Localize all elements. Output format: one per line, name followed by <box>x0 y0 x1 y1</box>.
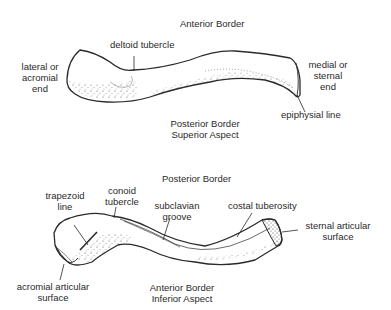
label-lateral-end-line2: acromial <box>17 72 63 83</box>
superior-aspect-line2: Superior Aspect <box>160 129 250 140</box>
label-subclavian-groove-line2: groove <box>150 211 204 222</box>
anterior-border-title: Anterior Border <box>180 18 244 29</box>
superior-aspect-line1: Posterior Border <box>160 118 250 129</box>
label-acromial-articular-surface: acromial articular surface <box>10 281 96 303</box>
superior-aspect-title: Posterior Border Superior Aspect <box>160 118 250 140</box>
label-conoid-tubercle-line2: tubercle <box>100 196 144 207</box>
label-trapezoid-line1: trapezoid <box>40 190 90 201</box>
label-subclavian-groove: subclavian groove <box>150 200 204 222</box>
label-medial-end-line1: medial or <box>305 59 351 70</box>
label-costal-tuberosity: costal tuberosity <box>228 200 297 211</box>
label-medial-end: medial or sternal end <box>305 59 351 92</box>
inferior-aspect-line1: Anterior Border <box>142 282 222 293</box>
label-lateral-end-line3: end <box>17 83 63 94</box>
label-medial-end-line2: sternal <box>305 70 351 81</box>
inferior-aspect-line2: Inferior Aspect <box>142 293 222 304</box>
label-sternal-articular-line1: sternal articular <box>300 220 376 231</box>
label-medial-end-line3: end <box>305 81 351 92</box>
label-sternal-articular-line2: surface <box>300 231 376 242</box>
label-conoid-tubercle-line1: conoid <box>100 185 144 196</box>
inferior-aspect-title: Anterior Border Inferior Aspect <box>142 282 222 304</box>
label-lateral-end-line1: lateral or <box>17 61 63 72</box>
clavicle-illustration <box>0 0 391 310</box>
label-acromial-articular-line2: surface <box>10 292 96 303</box>
label-conoid-tubercle: conoid tubercle <box>100 185 144 207</box>
label-sternal-articular-surface: sternal articular surface <box>300 220 376 242</box>
label-trapezoid-line2: line <box>40 201 90 212</box>
label-trapezoid-line: trapezoid line <box>40 190 90 212</box>
posterior-border-title: Posterior Border <box>162 173 231 184</box>
label-acromial-articular-line1: acromial articular <box>10 281 96 292</box>
label-epiphysial-line: epiphysial line <box>281 109 341 120</box>
clavicle-superior-aspect <box>67 50 305 112</box>
label-subclavian-groove-line1: subclavian <box>150 200 204 211</box>
label-deltoid-tubercle: deltoid tubercle <box>110 39 174 50</box>
label-lateral-end: lateral or acromial end <box>17 61 63 94</box>
